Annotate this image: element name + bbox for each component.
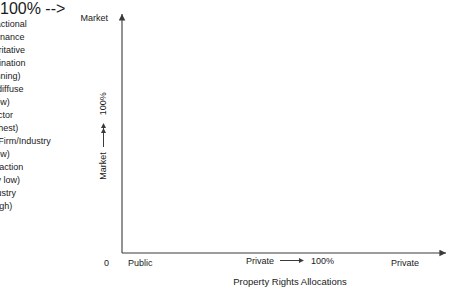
- x-axis-right-label: Private: [391, 257, 419, 269]
- x-axis-caption: Private 100%: [246, 255, 334, 267]
- y-axis-bottom-line2: Coordination: [0, 57, 229, 70]
- y-axis-title-line2: Governance: [0, 31, 229, 44]
- quadrant-top-right-level: (Highest): [0, 122, 229, 135]
- x-axis-caption-arrow-icon: [279, 257, 305, 264]
- x-axis-left-label: Public: [128, 257, 153, 269]
- quadrant-top-left-level: (low): [0, 96, 229, 109]
- y-axis-title: Transactional Governance: [0, 18, 229, 44]
- y-axis-title-line1: Transactional: [0, 18, 229, 31]
- diagram-canvas: Market 100% --> Market 100% Transactiona…: [0, 0, 458, 292]
- y-axis-bottom-line1: Authoritative: [0, 44, 229, 57]
- quadrant-bottom-left-level: (Very low): [0, 174, 229, 187]
- quadrant-center-level: (low): [0, 148, 229, 161]
- quadrant-label-bottom-left: Transaction (Very low): [0, 161, 229, 187]
- quadrant-label-center: Transaction/Firm/Industry (low): [0, 135, 229, 161]
- x-axis-caption-label: Private: [246, 256, 274, 266]
- quadrant-top-right-name: Sector: [0, 109, 229, 122]
- quadrant-label-top-left: Firm/diffuse (low): [0, 83, 229, 109]
- quadrant-label-bottom-right: Industry (High): [0, 187, 229, 213]
- quadrant-bottom-right-name: Industry: [0, 187, 229, 200]
- quadrant-top-left-name: Firm/diffuse: [0, 83, 229, 96]
- quadrant-bottom-left-name: Transaction: [0, 161, 229, 174]
- x-axis-origin-tick: 0: [104, 257, 109, 269]
- quadrant-center-name: Transaction/Firm/Industry: [0, 135, 229, 148]
- y-axis-bottom-label: Authoritative Coordination (Planning): [0, 44, 229, 83]
- quadrant-bottom-right-level: (High): [0, 200, 229, 213]
- x-axis-title: Property Rights Allocations: [233, 276, 347, 288]
- y-axis-bottom-line3: (Planning): [0, 70, 229, 83]
- quadrant-label-top-right: Sector (Highest): [0, 109, 229, 135]
- x-axis-caption-value: 100%: [311, 256, 334, 266]
